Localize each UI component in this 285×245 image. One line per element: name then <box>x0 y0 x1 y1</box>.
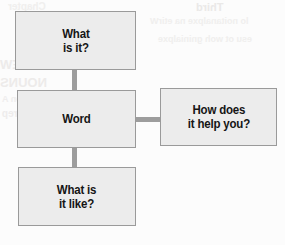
bleed-text-line: esu ot woh gninialpxe <box>158 34 252 44</box>
node-label: Word <box>62 112 90 126</box>
bleed-text-line: Third <box>196 1 224 13</box>
connector-word-to-what-is-it-like <box>72 148 77 167</box>
node-what-is-it-like[interactable]: What is it like? <box>18 167 136 226</box>
node-label: What is it like? <box>57 183 97 211</box>
connector-word-to-how-does-it-help-you <box>136 117 160 122</box>
node-word[interactable]: Word <box>17 90 136 148</box>
diagram-canvas: Third lo noitanalpxe na etirW esu ot woh… <box>0 0 285 245</box>
node-what-is-it[interactable]: What is it? <box>15 11 136 70</box>
bleed-text-line: lo noitanalpxe na etirW <box>150 16 249 26</box>
node-label: What is it? <box>62 27 89 55</box>
bleed-text-line: NOUNS <box>0 75 47 90</box>
node-how-does-it-help-you[interactable]: How does it help you? <box>160 88 277 146</box>
node-label: How does it help you? <box>187 103 249 131</box>
connector-word-to-what-is-it <box>72 70 77 90</box>
